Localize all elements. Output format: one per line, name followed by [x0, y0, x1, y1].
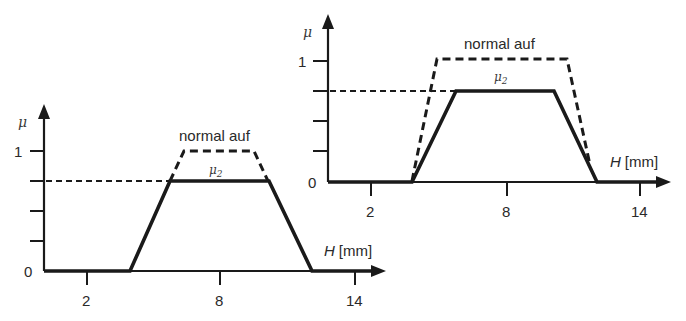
- left-y-axis-arrow-icon: [38, 104, 50, 119]
- left-y-ticks: [30, 151, 44, 241]
- right-mu2-label: μ2: [494, 70, 508, 86]
- right-x-axis-unit: [mm]: [625, 153, 658, 170]
- left-y-axis-label: μ: [18, 114, 27, 130]
- right-clipped-set-solid: [328, 91, 657, 182]
- left-x-axis-unit: [mm]: [339, 242, 372, 259]
- left-mu2-label: μ2: [209, 163, 223, 179]
- right-x-tick-label-8: 8: [502, 203, 510, 220]
- right-y-ticks: [313, 61, 328, 151]
- left-x-tick-label-2: 2: [82, 292, 90, 309]
- left-x-tick-label-8: 8: [215, 292, 223, 309]
- right-set-label: normal auf: [464, 35, 536, 52]
- right-x-tick-label-14: 14: [631, 203, 648, 220]
- right-x-axis-label: H[mm]: [610, 153, 658, 170]
- right-y-axis-arrow-icon: [322, 14, 334, 29]
- left-x-axis-arrow-icon: [371, 265, 386, 277]
- left-x-axis-label: H[mm]: [324, 242, 372, 259]
- left-x-tick-label-14: 14: [346, 292, 363, 309]
- right-x-axis-arrow-icon: [656, 176, 671, 188]
- right-y-axis-label: μ: [303, 24, 312, 40]
- right-x-ticks: [371, 182, 640, 196]
- left-clipped-set-solid: [44, 181, 372, 271]
- right-y-tick-label-1: 1: [298, 53, 306, 70]
- left-y-tick-label-0: 0: [24, 263, 32, 280]
- membership-diagram: μ 1 0 2 8 14 H[mm] normal auf μ2: [0, 0, 686, 321]
- left-x-ticks: [87, 271, 355, 285]
- left-set-label: normal auf: [179, 127, 251, 144]
- right-x-axis-var: H: [610, 153, 621, 170]
- left-chart: μ 1 0 2 8 14 H[mm] normal auf μ2: [14, 104, 386, 309]
- right-x-tick-label-2: 2: [366, 203, 374, 220]
- left-y-tick-label-1: 1: [14, 143, 22, 160]
- right-chart: μ 1 0 2 8 14 H[mm] normal auf μ2: [298, 14, 671, 220]
- right-y-tick-label-0: 0: [308, 174, 316, 191]
- left-x-axis-var: H: [324, 242, 335, 259]
